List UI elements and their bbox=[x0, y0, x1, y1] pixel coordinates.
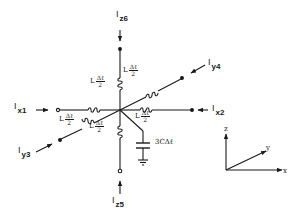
label-current-z5: Iz5 bbox=[112, 196, 124, 205]
branch-z6 bbox=[118, 48, 123, 110]
branch-x2 bbox=[120, 108, 193, 113]
inductor-prefix: L bbox=[135, 113, 140, 120]
label-current-y4: Iy4 bbox=[208, 58, 220, 67]
inductor-fraction: Δℓ2 bbox=[96, 75, 105, 89]
current-symbol: I bbox=[14, 101, 17, 111]
inductor-prefix: L bbox=[123, 67, 128, 74]
inductor-fraction: Δℓ2 bbox=[95, 120, 104, 134]
fraction-denominator: 2 bbox=[67, 120, 71, 126]
node-y3 bbox=[59, 139, 62, 142]
label-current-x1: Ix1 bbox=[14, 102, 26, 111]
node-z5 bbox=[118, 169, 122, 173]
inductor-prefix: L bbox=[90, 78, 95, 85]
current-symbol: I bbox=[18, 145, 21, 155]
node-z6 bbox=[119, 48, 122, 51]
branch-y4 bbox=[120, 77, 183, 110]
label-inductor-z6: L Δℓ2 bbox=[123, 64, 138, 78]
inductor-x1-icon bbox=[88, 108, 100, 113]
current-subscript: z6 bbox=[120, 14, 128, 23]
label-inductor-x1: L Δℓ2 bbox=[59, 113, 74, 127]
label-current-z6: Iz6 bbox=[116, 10, 128, 19]
current-symbol: I bbox=[112, 195, 115, 205]
inductor-fraction: Δℓ2 bbox=[129, 64, 138, 78]
axis-label-y: y bbox=[266, 145, 270, 152]
inductor-prefix: L bbox=[89, 123, 94, 130]
current-subscript: z5 bbox=[116, 200, 124, 209]
inductor-z5-icon bbox=[118, 126, 123, 138]
label-inductor-capacitor-branch: L Δℓ2 bbox=[135, 110, 150, 124]
circuit-diagram bbox=[0, 0, 300, 218]
inductor-fraction: Δℓ2 bbox=[141, 110, 150, 124]
ground-icon bbox=[138, 160, 148, 165]
current-subscript: y3 bbox=[22, 150, 31, 159]
label-inductor-y3: L Δℓ2 bbox=[89, 120, 104, 134]
axis-label-z: z bbox=[224, 126, 228, 133]
label-current-x2: Ix2 bbox=[212, 104, 224, 113]
inductor-z6-icon bbox=[118, 78, 123, 90]
branch-z5 bbox=[118, 110, 123, 173]
fraction-denominator: 2 bbox=[143, 117, 147, 123]
label-capacitor: 3CΔℓ bbox=[155, 139, 173, 146]
fraction-denominator: 2 bbox=[97, 127, 101, 133]
current-subscript: x1 bbox=[18, 106, 27, 115]
node-x2 bbox=[191, 109, 194, 112]
current-subscript: y4 bbox=[212, 62, 221, 71]
current-subscript: x2 bbox=[216, 108, 225, 117]
arrow-y3-icon bbox=[36, 144, 52, 152]
current-symbol: I bbox=[212, 103, 215, 113]
inductor-prefix: L bbox=[59, 116, 64, 123]
fraction-denominator: 2 bbox=[98, 82, 102, 88]
inductor-fraction: Δℓ2 bbox=[65, 113, 74, 127]
label-inductor-upper-left: L Δℓ2 bbox=[90, 75, 105, 89]
inductor-y4-icon bbox=[146, 92, 158, 98]
coordinate-axes bbox=[226, 134, 282, 170]
arrow-y4-icon bbox=[191, 65, 205, 73]
current-symbol: I bbox=[116, 9, 119, 19]
node-x1 bbox=[56, 108, 59, 111]
current-symbol: I bbox=[208, 57, 211, 67]
fraction-denominator: 2 bbox=[131, 71, 135, 77]
label-current-y3: Iy3 bbox=[18, 146, 30, 155]
axis-label-x: x bbox=[283, 168, 287, 175]
node-y4 bbox=[181, 77, 184, 80]
